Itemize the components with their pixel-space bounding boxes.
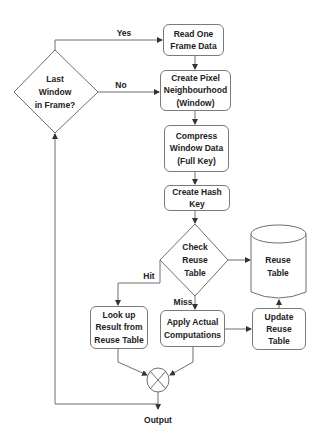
line: Update [265,311,294,323]
line: (Full Key) [170,155,223,167]
compress-node: Compress Window Data (Full Key) [164,125,229,172]
apply-node: Apply Actual Computations [160,310,225,347]
line: Reuse [265,254,291,267]
line: (Window) [164,97,227,109]
line: Window Data [170,142,223,154]
read-frame-node: Read One Frame Data [163,24,224,56]
line: Apply Actual [164,316,221,328]
create-pixel-node: Create Pixel Neighbourhood (Window) [160,70,231,111]
line: in Frame? [35,98,76,111]
line: Table [265,267,291,280]
check-reuse-label: Check Reuse Table [182,241,208,279]
line: Result from [94,321,143,333]
line: Window [35,86,76,99]
flowchart-connectors [0,0,326,445]
edge-label-no: No [115,79,126,92]
line: Create Pixel [164,72,227,84]
edge-label-output: Output [144,414,172,427]
line: Read One [170,28,216,40]
line: Frame Data [170,40,216,52]
line: Last [35,73,76,86]
reuse-table-label: Reuse Table [265,254,291,280]
edge-label-hit: Hit [143,270,154,283]
line: Table [182,266,208,279]
line: Create Hash Key [166,186,228,211]
line: Table [265,335,294,347]
line: Check [182,241,208,254]
last-window-label: Last Window in Frame? [35,73,76,111]
line: Computations [164,329,221,341]
line: Neighbourhood [164,84,227,96]
line: Reuse [182,254,208,267]
line: Compress [170,130,223,142]
line: Look up [94,309,143,321]
line: Reuse Table [94,334,143,346]
lookup-node: Look up Result from Reuse Table [90,306,148,349]
update-node: Update Reuse Table [252,308,306,350]
edge-label-miss: Miss [174,296,193,309]
edge-label-yes: Yes [117,27,132,40]
hash-key-node: Create Hash Key [164,185,230,211]
line: Reuse [265,323,294,335]
